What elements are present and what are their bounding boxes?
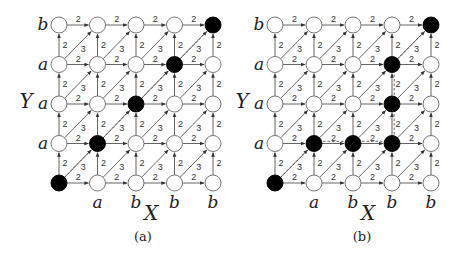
vertical-edge-weight: 2 [139, 119, 144, 129]
horizontal-edge-weight: 2 [114, 54, 119, 64]
active-node [90, 136, 106, 152]
column-label: b [169, 192, 180, 212]
node [205, 175, 221, 191]
diagonal-edge-weight: 3 [297, 44, 302, 54]
column-label: b [348, 192, 359, 212]
horizontal-edge-weight: 2 [370, 93, 375, 103]
node [267, 136, 283, 152]
vertical-edge-weight: 2 [434, 79, 439, 89]
vertical-edge-weight: 2 [216, 79, 221, 89]
vertical-edge-weight: 2 [278, 40, 283, 50]
vertical-edge-weight: 2 [317, 158, 322, 168]
diagonal-edge-weight: 3 [375, 44, 380, 54]
horizontal-edge-weight: 2 [292, 14, 297, 24]
y-axis-label: Y [19, 89, 34, 113]
diagonal-edge-weight: 3 [119, 123, 124, 133]
node [384, 175, 400, 191]
horizontal-edge-weight: 2 [153, 93, 158, 103]
diagonal-edge-weight: 3 [158, 44, 163, 54]
diagonal-edge-weight: 3 [375, 162, 380, 172]
vertical-edge-weight: 2 [62, 40, 67, 50]
diagonal-edge-weight: 3 [336, 123, 341, 133]
active-node [345, 136, 361, 152]
column-label: b [387, 192, 398, 212]
row-label: a [254, 133, 264, 153]
diagonal-edge-weight: 3 [336, 162, 341, 172]
horizontal-edge-weight: 2 [292, 93, 297, 103]
horizontal-edge-weight: 2 [292, 54, 297, 64]
node [90, 175, 106, 191]
row-label: a [254, 93, 264, 113]
diagonal-edge-weight: 3 [297, 83, 302, 93]
horizontal-edge-weight: 2 [409, 133, 414, 143]
vertical-edge-weight: 2 [178, 158, 183, 168]
node [128, 57, 144, 73]
horizontal-edge-weight: 2 [153, 172, 158, 182]
horizontal-edge-weight: 2 [370, 172, 375, 182]
active-node [128, 96, 144, 112]
row-label: a [38, 54, 48, 74]
horizontal-edge-weight: 2 [76, 14, 81, 24]
horizontal-edge-weight: 2 [153, 14, 158, 24]
diagonal-edge-weight: 3 [158, 162, 163, 172]
vertical-edge-weight: 2 [101, 40, 106, 50]
horizontal-edge-weight: 2 [331, 93, 336, 103]
node [51, 57, 67, 73]
node [267, 96, 283, 112]
diagonal-edge-weight: 3 [196, 123, 201, 133]
horizontal-edge-weight: 2 [76, 93, 81, 103]
horizontal-edge-weight: 2 [331, 54, 336, 64]
horizontal-edge-weight: 2 [153, 54, 158, 64]
diagonal-edge-weight: 3 [336, 83, 341, 93]
diagonal-edge-weight: 3 [81, 83, 86, 93]
node [345, 17, 361, 33]
node [306, 17, 322, 33]
column-label: a [92, 192, 102, 212]
diagonal-edge-weight: 3 [81, 123, 86, 133]
vertical-edge-weight: 2 [101, 158, 106, 168]
active-node [51, 175, 67, 191]
diagonal-edge-weight: 3 [158, 83, 163, 93]
active-node [384, 96, 400, 112]
node [306, 96, 322, 112]
horizontal-edge-weight: 2 [191, 14, 196, 24]
diagonal-edge-weight: 3 [81, 162, 86, 172]
diagonal-edge-weight: 3 [119, 44, 124, 54]
diagonal-edge-weight: 3 [414, 162, 419, 172]
node [423, 175, 439, 191]
node [423, 57, 439, 73]
vertical-edge-weight: 2 [178, 119, 183, 129]
node [345, 96, 361, 112]
node [306, 175, 322, 191]
node [51, 17, 67, 33]
panel-b: 2232232232232223223223223222322322322322… [235, 14, 439, 244]
node [167, 175, 183, 191]
x-axis-label: X [142, 201, 159, 225]
node [267, 57, 283, 73]
diagonal-edge-weight: 3 [81, 44, 86, 54]
vertical-edge-weight: 2 [178, 40, 183, 50]
vertical-edge-weight: 2 [317, 79, 322, 89]
node [128, 17, 144, 33]
horizontal-edge-weight: 2 [331, 172, 336, 182]
node [345, 57, 361, 73]
horizontal-edge-weight: 2 [409, 172, 414, 182]
diagonal-edge-weight: 3 [375, 83, 380, 93]
vertical-edge-weight: 2 [216, 40, 221, 50]
row-label: a [38, 133, 48, 153]
node [90, 17, 106, 33]
active-node [384, 57, 400, 73]
horizontal-edge-weight: 2 [292, 172, 297, 182]
vertical-edge-weight: 2 [139, 40, 144, 50]
horizontal-edge-weight: 2 [76, 172, 81, 182]
vertical-edge-weight: 2 [356, 40, 361, 50]
vertical-edge-weight: 2 [356, 79, 361, 89]
active-node [423, 17, 439, 33]
node [423, 96, 439, 112]
vertical-edge-weight: 2 [317, 40, 322, 50]
diagonal-edge-weight: 3 [196, 162, 201, 172]
diagonal-edge-weight: 3 [196, 83, 201, 93]
vertical-edge-weight: 2 [278, 119, 283, 129]
horizontal-edge-weight: 2 [114, 172, 119, 182]
node [51, 96, 67, 112]
